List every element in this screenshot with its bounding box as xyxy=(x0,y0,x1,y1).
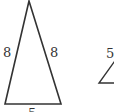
right-side-label: 8 xyxy=(50,45,58,60)
geometry-diagram: 8 8 5 5 xyxy=(0,0,114,112)
triangle-2-outline xyxy=(99,58,114,83)
partial-triangle: 5 xyxy=(99,46,114,83)
left-side-label: 8 xyxy=(3,45,11,60)
base-label: 5 xyxy=(28,106,36,112)
isosceles-triangle: 8 8 5 xyxy=(3,1,61,112)
triangle-2-side-label: 5 xyxy=(106,46,114,61)
